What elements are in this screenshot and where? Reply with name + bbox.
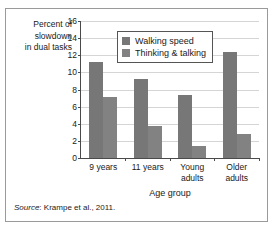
y-tick-label: 8 xyxy=(72,85,77,95)
bar xyxy=(223,52,237,158)
x-tick-label: Youngadults xyxy=(170,162,215,183)
bar xyxy=(237,134,251,158)
x-tick-mark xyxy=(125,158,126,161)
x-axis-title: Age group xyxy=(81,188,259,198)
y-axis-title-line-2: slowdown xyxy=(8,31,72,43)
y-tick-label: 4 xyxy=(72,119,77,129)
x-tick-mark xyxy=(214,158,215,161)
legend-swatch-icon xyxy=(122,37,130,45)
bar xyxy=(178,95,192,158)
x-tick-mark xyxy=(170,158,171,161)
source-citation: Krampe et al., 2011. xyxy=(42,203,116,212)
x-tick-label-line: adults xyxy=(170,173,215,184)
x-tick-label-line: Young xyxy=(170,162,215,173)
x-tick-label-line: Older xyxy=(215,162,260,173)
y-tick-label: 12 xyxy=(68,50,77,60)
legend-item: Thinking & talking xyxy=(122,47,206,59)
y-tick-label: 2 xyxy=(72,136,77,146)
x-tick-label: Olderadults xyxy=(215,162,260,183)
x-tick-label: 11 years xyxy=(126,162,171,173)
legend-item-label: Thinking & talking xyxy=(135,48,206,58)
y-tick-mark xyxy=(78,158,81,159)
legend-item: Walking speed xyxy=(122,35,206,47)
y-tick-label: 6 xyxy=(72,102,77,112)
x-tick-mark xyxy=(259,158,260,161)
y-axis-title: Percent of slowdown in dual tasks xyxy=(8,19,72,54)
figure-frame: Percent of slowdown in dual tasks 024681… xyxy=(5,8,268,222)
y-tick-label: 14 xyxy=(68,33,77,43)
y-tick-label: 16 xyxy=(68,16,77,26)
bar xyxy=(148,126,162,158)
source-note: Source: Krampe et al., 2011. xyxy=(14,203,115,212)
source-label: Source xyxy=(14,203,39,212)
bar xyxy=(134,79,148,158)
chart-legend: Walking speed Thinking & talking xyxy=(117,31,213,63)
x-tick-label-line: 9 years xyxy=(81,162,126,173)
y-tick-label: 0 xyxy=(72,153,77,163)
legend-swatch-icon xyxy=(122,49,130,57)
legend-item-label: Walking speed xyxy=(135,36,194,46)
x-tick-label: 9 years xyxy=(81,162,126,173)
y-tick-label: 10 xyxy=(68,67,77,77)
bar xyxy=(192,146,206,158)
y-axis-title-line-1: Percent of xyxy=(8,19,72,31)
x-tick-label-line: 11 years xyxy=(126,162,171,173)
y-axis-title-line-3: in dual tasks xyxy=(8,42,72,54)
bar xyxy=(103,97,117,158)
x-tick-label-line: adults xyxy=(215,173,260,184)
bar-group: Olderadults xyxy=(215,21,260,158)
bar xyxy=(89,62,103,158)
